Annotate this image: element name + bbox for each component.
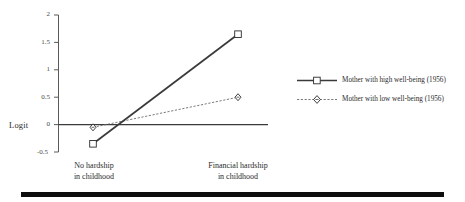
x-category-line-2: in childhood bbox=[189, 172, 287, 183]
y-tick-label-1: 1 bbox=[24, 66, 50, 73]
legend-label-low-wellbeing: Mother with low well-being (1956) bbox=[342, 95, 444, 103]
series-line-low-wellbeing bbox=[93, 97, 238, 127]
open-diamond-marker-icon bbox=[296, 90, 338, 109]
y-tick-label-2: 2 bbox=[24, 11, 50, 18]
x-category-line-1: No hardship bbox=[55, 161, 133, 172]
legend-label-high-wellbeing: Mother with high well-being (1956) bbox=[342, 76, 446, 84]
x-category-line-1: Financial hardship bbox=[189, 161, 287, 172]
chart-page: 2 1.5 1 0.5 0 -0.5 Logit No hardship in … bbox=[0, 0, 465, 202]
legend-item-high-wellbeing: Mother with high well-being (1956) bbox=[296, 71, 465, 90]
chart-legend: Mother with high well-being (1956) Mothe… bbox=[296, 71, 465, 109]
open-square-marker-icon bbox=[296, 71, 338, 90]
legend-key-high-wellbeing bbox=[296, 71, 338, 90]
y-tick-label-minus-0-5: -0.5 bbox=[22, 149, 48, 156]
bottom-rule bbox=[21, 192, 444, 197]
y-axis-ticks bbox=[54, 15, 59, 152]
plot-area: 2 1.5 1 0.5 0 -0.5 bbox=[0, 0, 300, 185]
y-axis-title: Logit bbox=[9, 120, 28, 130]
legend-key-low-wellbeing bbox=[296, 90, 338, 109]
x-category-label-no-hardship: No hardship in childhood bbox=[55, 161, 133, 182]
data-point-high-no-hardship bbox=[90, 141, 97, 148]
y-tick-label-1-5: 1.5 bbox=[24, 39, 50, 46]
y-tick-label-0-5: 0.5 bbox=[24, 94, 50, 101]
x-category-line-2: in childhood bbox=[55, 172, 133, 183]
legend-item-low-wellbeing: Mother with low well-being (1956) bbox=[296, 90, 465, 109]
x-category-label-financial-hardship: Financial hardship in childhood bbox=[189, 161, 287, 182]
data-point-high-financial-hardship bbox=[235, 31, 242, 38]
series-line-high-wellbeing bbox=[93, 34, 238, 144]
